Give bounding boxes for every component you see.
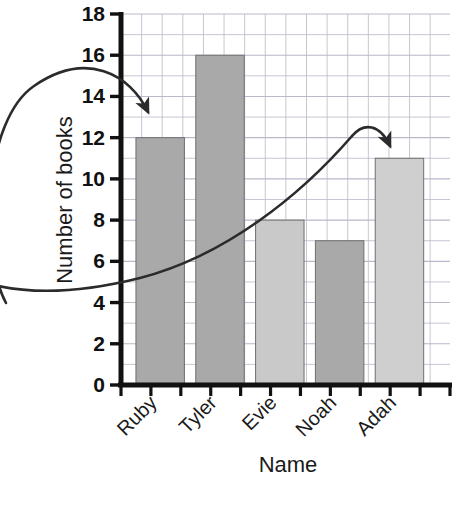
- y-tick-label: 16: [82, 43, 105, 66]
- y-tick-label: 14: [82, 84, 106, 107]
- y-tick-label: 4: [93, 291, 105, 314]
- y-tick-label: 6: [93, 249, 105, 272]
- y-tick-label: 18: [82, 2, 106, 25]
- y-tick-label: 10: [82, 167, 105, 190]
- y-tick-label: 0: [93, 373, 105, 396]
- bar-ruby: [136, 138, 184, 385]
- y-tick-label: 2: [93, 332, 105, 355]
- bar-chart-figure: 024681012141618 RubyTylerEvieNoahAdah Nu…: [0, 0, 474, 510]
- bar-noah: [315, 241, 363, 385]
- y-tick-label: 8: [93, 208, 105, 231]
- bar-evie: [256, 220, 304, 385]
- bar-tyler: [196, 55, 244, 385]
- y-tick-label: 12: [82, 126, 105, 149]
- y-axis-title: Number of books: [52, 116, 77, 284]
- bar-adah: [375, 158, 423, 385]
- x-axis-title: Name: [259, 452, 318, 477]
